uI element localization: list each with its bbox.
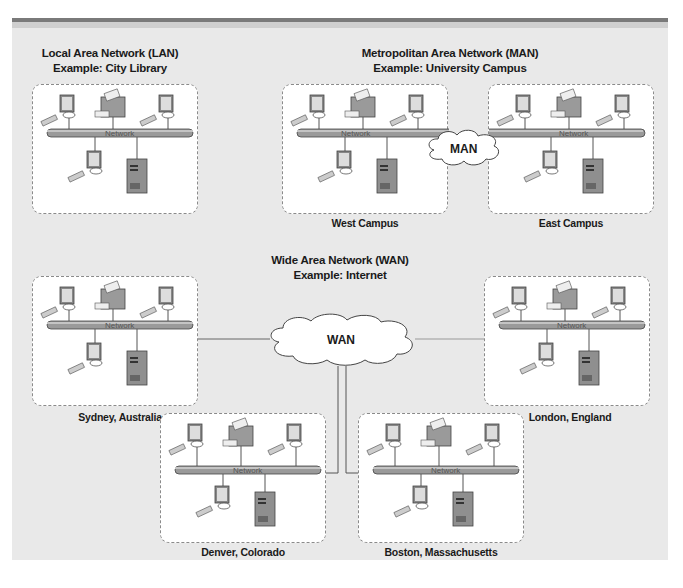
bus-label: Network [431,466,461,475]
computer-icon [367,424,401,455]
printer-icon [345,89,375,117]
network-nodes: Network [485,277,651,407]
computer-icon [318,151,352,182]
network-bus: Network [499,321,645,330]
computer-icon [140,287,174,318]
computer-icon [390,95,424,126]
network-nodes: Network [161,414,327,544]
man-cloud-icon: MAN [424,126,504,168]
network-nodes: Network [489,85,655,215]
east-campus-network-box: Network [488,84,654,214]
bus-label: Network [233,466,263,475]
network-bus: Network [489,129,645,138]
computer-icon [493,287,527,318]
network-nodes: Network [359,414,525,544]
computer-icon [68,343,102,374]
printer-icon [421,418,451,446]
sydney-caption: Sydney, Australia [70,411,170,423]
computer-icon [596,95,630,126]
bus-label: Network [105,129,135,138]
server-icon [255,492,275,526]
computer-icon [41,287,75,318]
man-title-block: Metropolitan Area Network (MAN) Example:… [330,46,570,76]
network-nodes: Network [33,85,199,215]
lan-title-block: Local Area Network (LAN) Example: City L… [20,46,200,76]
server-icon [453,492,473,526]
computer-icon [196,486,230,517]
computer-icon [497,95,531,126]
bus-label: Network [341,129,371,138]
computer-icon [41,95,75,126]
printer-icon [95,89,125,117]
computer-icon [140,95,174,126]
wan-title-block: Wide Area Network (WAN) Example: Interne… [250,253,430,283]
wan-example: Example: Internet [250,268,430,283]
man-title: Metropolitan Area Network (MAN) [330,46,570,61]
server-icon [579,351,599,385]
computer-icon [68,151,102,182]
lan-example: Example: City Library [20,61,200,76]
east-campus-caption: East Campus [488,217,654,229]
computer-icon [394,486,428,517]
computer-icon [169,424,203,455]
printer-icon [95,281,125,309]
boston-caption: Boston, Massachusetts [358,546,524,558]
network-bus: Network [47,129,193,138]
london-network-box: Network [484,276,650,406]
server-icon [583,159,603,193]
server-icon [377,159,397,193]
server-icon [127,351,147,385]
printer-icon [223,418,253,446]
computer-icon [592,287,626,318]
computer-icon [291,95,325,126]
computer-icon [466,424,500,455]
denver-caption: Denver, Colorado [160,546,326,558]
network-bus: Network [47,321,193,330]
man-example: Example: University Campus [330,61,570,76]
lan-title: Local Area Network (LAN) [20,46,200,61]
bus-label: Network [559,129,589,138]
server-icon [127,159,147,193]
network-bus: Network [175,466,321,475]
man-cloud-label: MAN [450,142,477,156]
printer-icon [547,281,577,309]
wan-title: Wide Area Network (WAN) [250,253,430,268]
computer-icon [268,424,302,455]
network-bus: Network [373,466,519,475]
lan-network-box: Network [32,84,198,214]
wan-cloud-label: WAN [327,333,355,347]
boston-network-box: Network [358,413,524,543]
denver-network-box: Network [160,413,326,543]
printer-icon [551,89,581,117]
sydney-network-box: Network [32,276,198,406]
london-caption: London, England [520,411,620,423]
west-campus-caption: West Campus [282,217,448,229]
bus-label: Network [105,321,135,330]
computer-icon [520,343,554,374]
computer-icon [524,151,558,182]
network-nodes: Network [33,277,199,407]
bus-label: Network [557,321,587,330]
wan-cloud-icon: WAN [265,310,419,368]
